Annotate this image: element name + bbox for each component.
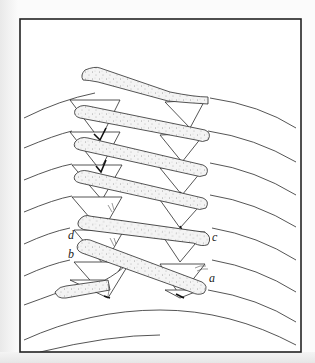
figure-frame <box>20 19 301 352</box>
label-a: a <box>209 271 215 285</box>
label-b: b <box>68 247 74 261</box>
strap-weave-illustration: d b c a <box>0 0 315 363</box>
label-c: c <box>212 230 218 244</box>
label-d: d <box>68 228 75 242</box>
